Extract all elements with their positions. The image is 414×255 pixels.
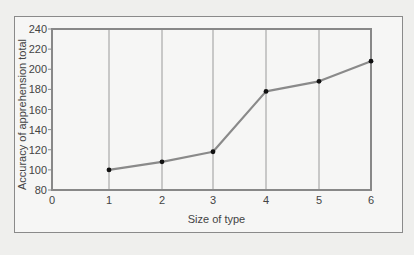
- y-tick-label: 240: [29, 23, 47, 35]
- x-tick-label: 2: [159, 194, 165, 206]
- y-tick-label: 220: [29, 43, 47, 55]
- plot-area-border: [52, 29, 371, 190]
- x-axis-ticks: 0123456: [49, 194, 374, 206]
- y-tick-label: 180: [29, 83, 47, 95]
- y-tick-label: 80: [35, 184, 47, 196]
- x-tick-label: 6: [368, 194, 374, 206]
- x-axis-label: Size of type: [188, 213, 245, 225]
- x-tick-label: 3: [210, 194, 216, 206]
- x-tick-label: 4: [263, 194, 269, 206]
- x-tick-label: 0: [49, 194, 55, 206]
- line-chart: 80100120140160180200220240 0123456 Size …: [0, 0, 414, 255]
- y-axis-ticks: 80100120140160180200220240: [29, 23, 52, 196]
- data-point: [369, 59, 374, 64]
- y-tick-label: 120: [29, 144, 47, 156]
- y-tick-label: 160: [29, 104, 47, 116]
- data-point: [107, 167, 112, 172]
- y-tick-label: 200: [29, 63, 47, 75]
- y-tick-label: 140: [29, 124, 47, 136]
- data-point: [317, 79, 322, 84]
- y-axis-label: Accuracy of apprehension total: [16, 39, 28, 190]
- data-point: [211, 149, 216, 154]
- y-tick-label: 100: [29, 164, 47, 176]
- x-tick-label: 1: [106, 194, 112, 206]
- data-line: [109, 61, 371, 170]
- data-point: [264, 89, 269, 94]
- data-point: [160, 159, 165, 164]
- x-tick-label: 5: [316, 194, 322, 206]
